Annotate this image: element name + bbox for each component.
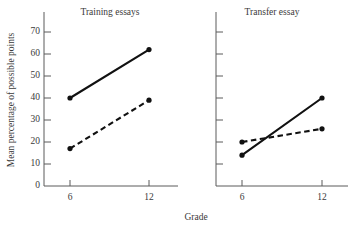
panel-training-essays: Training essays 70 60 50 40 30: [31, 7, 179, 202]
y-tick-label: 70: [31, 26, 41, 36]
y-tick-label: 50: [31, 70, 41, 80]
data-point-marker: [67, 146, 72, 151]
chart-svg: Training essays 70 60 50 40 30: [0, 0, 360, 226]
figure-container: Training essays 70 60 50 40 30: [0, 0, 360, 226]
y-tick-label: 30: [31, 114, 41, 124]
x-axis-label: Grade: [184, 212, 207, 222]
x-tick-label: 12: [144, 192, 154, 202]
series-solid-training: [67, 47, 151, 101]
y-tickmarks-left: [44, 32, 51, 164]
series-dashed-training: [67, 98, 151, 152]
x-tickmarks-right: [242, 180, 322, 186]
data-point-marker: [67, 95, 72, 100]
data-point-marker: [239, 153, 244, 158]
y-tickmarks-right: [216, 32, 223, 164]
data-point-marker: [319, 95, 324, 100]
data-point-marker: [146, 98, 151, 103]
x-tickmarks-left: [70, 180, 149, 186]
y-tick-label: 10: [31, 158, 41, 168]
y-tick-labels-left: 70 60 50 40 30 20 10 0: [31, 26, 41, 190]
series-solid-transfer: [239, 95, 324, 157]
x-tick-label: 12: [317, 192, 327, 202]
y-tick-label: 0: [35, 180, 40, 190]
series-dashed-transfer: [239, 126, 324, 144]
data-point-marker: [239, 139, 244, 144]
data-point-marker: [319, 126, 324, 131]
y-tick-label: 40: [31, 92, 41, 102]
x-tick-label: 6: [68, 192, 73, 202]
y-tick-label: 60: [31, 48, 41, 58]
panel-transfer-essay: Transfer essay 6 12: [216, 7, 348, 202]
panel-title-transfer: Transfer essay: [245, 7, 300, 17]
x-tick-label: 6: [240, 192, 245, 202]
y-tick-label: 20: [31, 136, 41, 146]
panel-title-training: Training essays: [80, 7, 139, 17]
y-axis-label: Mean percentage of possible points: [6, 32, 16, 167]
data-point-marker: [146, 47, 151, 52]
